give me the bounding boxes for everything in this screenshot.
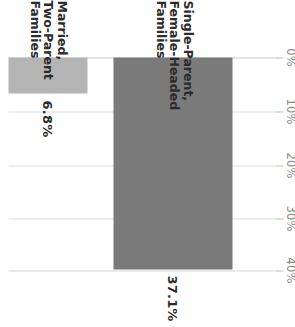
category-line: Two-Parent (41, 0, 55, 52)
value-label-married-two-parent: 6.8% (39, 100, 54, 137)
category-label-single-parent-female-headed: Single-Parent, Female-Headed Families (154, 0, 195, 52)
tick-stub-20 (276, 165, 283, 166)
value-label-single-parent-female-headed: 37.1% (164, 275, 179, 321)
tick-stub-40 (276, 270, 283, 271)
tick-stub-10 (276, 111, 283, 112)
tick-label-10: 10% (283, 98, 295, 124)
tick-label-40: 40% (283, 257, 295, 283)
tick-label-20: 20% (283, 152, 295, 178)
category-line: Single-Parent, (181, 0, 195, 52)
category-label-married-two-parent: Married, Two-Parent Families (28, 0, 69, 52)
category-line: Female-Headed (167, 0, 181, 52)
chart-canvas: 0% 10% 20% 30% 40% 37.1% Single-Parent, … (0, 0, 295, 327)
tick-stub-30 (276, 218, 283, 219)
plot-area: 0% 10% 20% 30% 40% 37.1% Single-Parent, … (0, 0, 295, 327)
category-line: Families (154, 0, 168, 52)
tick-label-0: 0% (283, 48, 295, 67)
tick-label-30: 30% (283, 205, 295, 231)
tick-stub-0 (276, 57, 283, 58)
gridline-40 (8, 270, 277, 271)
category-line: Families (28, 0, 42, 52)
category-line: Married, (55, 0, 69, 52)
